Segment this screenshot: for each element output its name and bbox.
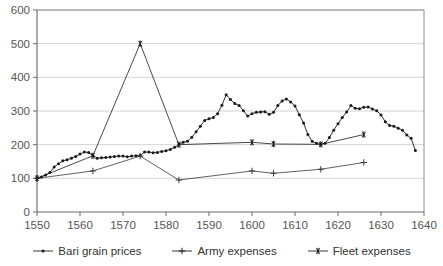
data-point-marker (104, 156, 107, 159)
data-point-marker (57, 162, 60, 165)
data-point-marker (147, 151, 150, 154)
data-point-marker (405, 133, 408, 136)
data-point-marker (414, 149, 417, 152)
y-tick-label: 200 (11, 139, 30, 151)
chart-legend: Bari grain pricesArmy expensesFleet expe… (0, 240, 443, 262)
data-point-marker (345, 111, 348, 114)
legend-marker-plus-icon (171, 245, 193, 257)
data-point-marker (199, 125, 202, 128)
data-point-marker (96, 157, 99, 160)
legend-item-label: Fleet expenses (333, 245, 411, 257)
data-point-marker (302, 122, 305, 125)
x-tick-label: 1600 (239, 219, 265, 231)
data-point-marker (216, 112, 219, 115)
data-point-marker (259, 111, 262, 114)
data-point-marker (276, 104, 279, 107)
data-point-marker (130, 155, 133, 158)
data-point-marker (117, 155, 120, 158)
y-tick-label: 400 (11, 71, 30, 83)
chart-plot-area: 0100200300400500600155015601570158015901… (0, 0, 443, 266)
x-tick-label: 1610 (282, 219, 308, 231)
data-point-marker (311, 140, 314, 143)
data-point-marker (392, 125, 395, 128)
data-point-marker (143, 151, 146, 154)
legend-item-fleet-expenses[interactable]: Fleet expenses (307, 245, 411, 257)
data-point-marker (74, 155, 77, 158)
x-tick-label: 1550 (24, 219, 50, 231)
data-point-marker (349, 104, 352, 107)
x-tick-label: 1640 (411, 219, 437, 231)
data-point-marker (173, 146, 176, 149)
data-point-marker (42, 250, 45, 253)
data-point-marker (208, 117, 211, 120)
data-point-marker (384, 120, 387, 123)
data-point-marker (233, 102, 236, 105)
data-point-marker (203, 119, 206, 122)
y-tick-label: 600 (11, 4, 30, 16)
legend-marker-asterisk-icon (307, 245, 329, 257)
data-point-marker (66, 158, 69, 161)
data-point-marker (100, 156, 103, 159)
data-point-marker (61, 159, 64, 162)
y-tick-label: 300 (11, 105, 30, 117)
x-tick-label: 1620 (325, 219, 351, 231)
x-tick-label: 1580 (153, 219, 179, 231)
data-point-marker (169, 148, 172, 151)
data-point-marker (272, 111, 275, 114)
x-tick-label: 1570 (110, 219, 136, 231)
data-point-marker (87, 151, 90, 154)
data-point-marker (328, 136, 331, 139)
data-point-marker (332, 129, 335, 132)
y-tick-label: 0 (24, 206, 30, 218)
legend-marker-dot-icon (32, 245, 54, 257)
y-tick-label: 500 (11, 38, 30, 50)
x-tick-label: 1630 (368, 219, 394, 231)
data-point-marker (83, 151, 86, 154)
data-point-marker (152, 151, 155, 154)
data-point-marker (160, 150, 163, 153)
data-point-marker (358, 107, 361, 110)
data-point-marker (242, 109, 245, 112)
data-point-marker (212, 116, 215, 119)
x-tick-label: 1560 (67, 219, 93, 231)
legend-item-army-expenses[interactable]: Army expenses (171, 245, 276, 257)
data-point-marker (380, 114, 383, 117)
data-point-marker (126, 155, 129, 158)
data-point-marker (186, 140, 189, 143)
data-point-marker (341, 116, 344, 119)
data-point-marker (225, 93, 228, 96)
data-point-marker (371, 107, 374, 110)
legend-item-label: Army expenses (197, 245, 276, 257)
data-point-marker (375, 109, 378, 112)
data-point-marker (294, 104, 297, 107)
data-point-marker (156, 151, 159, 154)
data-point-marker (70, 157, 73, 160)
chart-container: 0100200300400500600155015601570158015901… (0, 0, 443, 266)
data-point-marker (285, 97, 288, 100)
data-point-marker (354, 107, 357, 110)
data-point-marker (122, 155, 125, 158)
legend-item-label: Bari grain prices (58, 245, 141, 257)
data-point-marker (251, 112, 254, 115)
data-point-marker (229, 98, 232, 101)
data-point-marker (410, 137, 413, 140)
data-point-marker (220, 104, 223, 107)
data-point-marker (238, 104, 241, 107)
data-point-marker (109, 156, 112, 159)
series-bari-grain-prices (36, 93, 417, 179)
x-tick-label: 1590 (196, 219, 222, 231)
data-point-marker (401, 129, 404, 132)
data-point-marker (362, 106, 365, 109)
y-tick-label: 100 (11, 172, 30, 184)
legend-item-bari-grain-prices[interactable]: Bari grain prices (32, 245, 141, 257)
data-point-marker (255, 111, 258, 114)
data-point-marker (113, 155, 116, 158)
data-point-marker (306, 133, 309, 136)
data-point-marker (79, 153, 82, 156)
data-point-marker (190, 136, 193, 139)
data-point-marker (165, 149, 168, 152)
data-point-marker (281, 99, 284, 102)
data-point-marker (337, 122, 340, 125)
series-line (37, 95, 415, 178)
data-point-marker (298, 113, 301, 116)
